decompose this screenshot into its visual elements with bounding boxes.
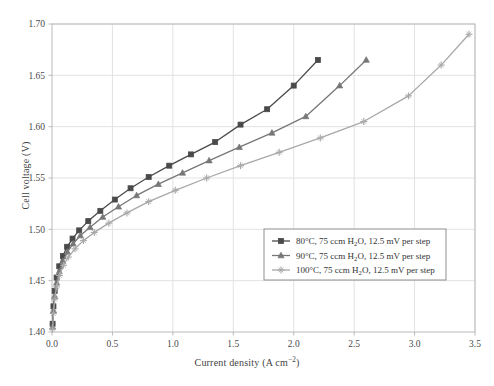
chart-background xyxy=(0,0,494,386)
data-point-marker xyxy=(49,325,56,332)
data-point-marker xyxy=(315,57,320,62)
data-point-marker xyxy=(317,134,324,141)
legend-entry-0: 80°C, 75 ccm H2O, 12.5 mV per step xyxy=(272,236,431,247)
y-tick-label: 1.45 xyxy=(28,276,45,286)
chart-figure: 0.00.51.01.52.02.53.03.51.401.451.501.55… xyxy=(0,0,494,386)
data-point-marker xyxy=(80,237,87,244)
data-point-marker xyxy=(86,219,91,224)
data-point-marker xyxy=(237,162,244,169)
data-point-marker xyxy=(213,140,218,145)
data-point-marker xyxy=(172,187,179,194)
data-point-marker xyxy=(71,245,78,252)
data-point-marker xyxy=(65,244,70,249)
legend-entry-1: 90°C, 75 ccm H2O, 12.5 mV per step xyxy=(272,251,431,262)
y-tick-label: 1.65 xyxy=(28,71,45,81)
data-point-marker xyxy=(438,62,445,69)
data-point-marker xyxy=(146,174,151,179)
data-point-marker xyxy=(112,197,117,202)
data-point-marker xyxy=(203,175,210,182)
polarization-chart: 0.00.51.01.52.02.53.03.51.401.451.501.55… xyxy=(0,0,494,386)
x-tick-label: 1.5 xyxy=(227,339,239,349)
chart-legend: 80°C, 75 ccm H2O, 12.5 mV per step90°C, … xyxy=(264,229,446,280)
legend-label: 80°C, 75 ccm H2O, 12.5 mV per step xyxy=(296,236,431,247)
y-axis-title: Cell voltage (V) xyxy=(20,106,31,246)
data-point-marker xyxy=(70,236,75,241)
y-tick-label: 1.60 xyxy=(28,122,45,132)
data-point-marker xyxy=(265,107,270,112)
data-point-marker xyxy=(123,209,130,216)
data-point-marker xyxy=(167,163,172,168)
x-tick-label: 0.0 xyxy=(46,339,58,349)
data-point-marker xyxy=(128,186,133,191)
legend-label: 100°C, 75 ccm H2O, 12.5 mV per step xyxy=(296,265,435,276)
data-point-marker xyxy=(238,122,243,127)
data-point-marker xyxy=(276,149,283,156)
x-tick-label: 3.0 xyxy=(409,339,421,349)
data-point-marker xyxy=(405,92,412,99)
data-point-marker xyxy=(145,198,152,205)
data-point-marker xyxy=(291,83,296,88)
data-point-marker xyxy=(77,228,82,233)
data-point-marker xyxy=(53,283,60,290)
data-point-marker xyxy=(65,254,72,261)
x-axis-title: Current density (A cm−2) xyxy=(0,356,494,368)
x-tick-label: 2.5 xyxy=(348,339,360,349)
y-tick-label: 1.55 xyxy=(28,173,45,183)
y-tick-label: 1.50 xyxy=(28,225,45,235)
y-tick-label: 1.40 xyxy=(28,327,45,337)
legend-entry-2: 100°C, 75 ccm H2O, 12.5 mV per step xyxy=(272,265,435,276)
y-tick-label: 1.70 xyxy=(28,19,45,29)
x-tick-label: 1.0 xyxy=(167,339,179,349)
data-point-marker xyxy=(278,267,285,274)
data-point-marker xyxy=(188,152,193,157)
data-point-marker xyxy=(465,31,472,38)
x-tick-label: 2.0 xyxy=(288,339,300,349)
data-point-marker xyxy=(279,239,284,244)
x-tick-label: 3.5 xyxy=(469,339,481,349)
legend-label: 90°C, 75 ccm H2O, 12.5 mV per step xyxy=(296,251,431,262)
x-tick-label: 0.5 xyxy=(106,339,118,349)
data-point-marker xyxy=(98,208,103,213)
